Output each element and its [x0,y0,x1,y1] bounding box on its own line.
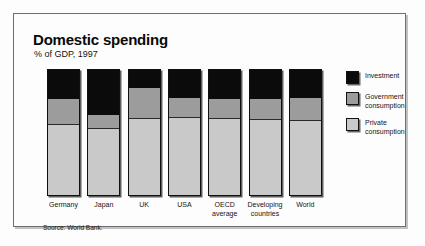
bar-segment-uk-government-consumption [129,88,160,119]
category-label-japan: Japan [81,201,127,210]
bar-segment-usa-investment [169,70,200,98]
category-label-oecd-average: OECD average [202,201,248,218]
bar-oecd-average [208,69,241,196]
bar-segment-japan-government-consumption [88,115,119,129]
bar-segment-usa-government-consumption [169,98,200,118]
chart-legend: InvestmentGovernment consumptionPrivate … [346,71,418,144]
bar-segment-developing-countries-investment [250,70,281,99]
bar-segment-world-private-consumption [290,121,321,195]
bar-segment-oecd-average-investment [209,70,240,99]
bar-segment-world-government-consumption [290,98,321,122]
category-label-usa: USA [161,201,207,210]
chart-subtitle: % of GDP, 1997 [34,49,98,59]
legend-item-government-consumption: Government consumption [346,92,418,110]
bar-uk [128,69,161,196]
chart-title: Domestic spending [33,31,168,48]
category-label-world: World [282,201,328,210]
source-note: Source: World Bank. [43,224,103,231]
chart-frame: Domestic spending % of GDP, 1997 Investm… [13,13,406,227]
category-label-uk: UK [121,201,167,210]
category-label-developing-countries: Developing countries [242,201,288,218]
bar-segment-uk-private-consumption [129,119,160,195]
bar-world [289,69,322,196]
bar-segment-oecd-average-private-consumption [209,119,240,195]
government-consumption-swatch [346,92,359,105]
bar-segment-usa-private-consumption [169,118,200,196]
legend-item-investment: Investment [346,71,418,84]
legend-label-investment: Investment [365,71,399,81]
bar-segment-developing-countries-government-consumption [250,99,281,120]
legend-label-government-consumption: Government consumption [365,92,418,110]
bar-segment-uk-investment [129,70,160,88]
bar-segment-germany-investment [48,70,79,99]
bar-segment-japan-private-consumption [88,129,119,195]
bar-segment-developing-countries-private-consumption [250,120,281,195]
investment-swatch [346,71,359,84]
bar-developing-countries [249,69,282,196]
category-label-germany: Germany [41,201,87,210]
bar-segment-world-investment [290,70,321,98]
bar-japan [87,69,120,196]
legend-label-private-consumption: Private consumption [365,118,418,136]
bar-usa [168,69,201,196]
private-consumption-swatch [346,118,359,131]
legend-item-private-consumption: Private consumption [346,118,418,136]
bar-segment-japan-investment [88,70,119,115]
bar-germany [47,69,80,196]
bar-segment-germany-private-consumption [48,125,79,195]
bar-segment-germany-government-consumption [48,99,79,125]
scanned-page: Domestic spending % of GDP, 1997 Investm… [0,0,425,246]
plot-area [47,69,330,196]
bar-segment-oecd-average-government-consumption [209,99,240,119]
